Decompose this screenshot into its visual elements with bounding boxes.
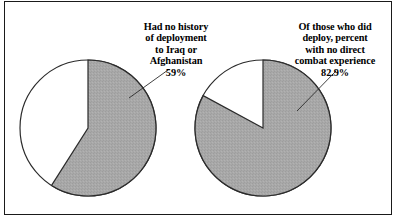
pie-right-label-text: Of those who did deploy, percent with no… [295,21,375,67]
pie-chart-figure: Had no history of deployment to Iraq or … [0,0,401,221]
pie-right-label-value: 82.9% [272,67,398,79]
pie-left-label-text: Had no history of deployment to Iraq or … [144,21,208,67]
pie-right-label: Of those who did deploy, percent with no… [272,9,398,90]
pie-left-label: Had no history of deployment to Iraq or … [103,9,249,90]
pie-left-label-value: 59% [103,67,249,79]
